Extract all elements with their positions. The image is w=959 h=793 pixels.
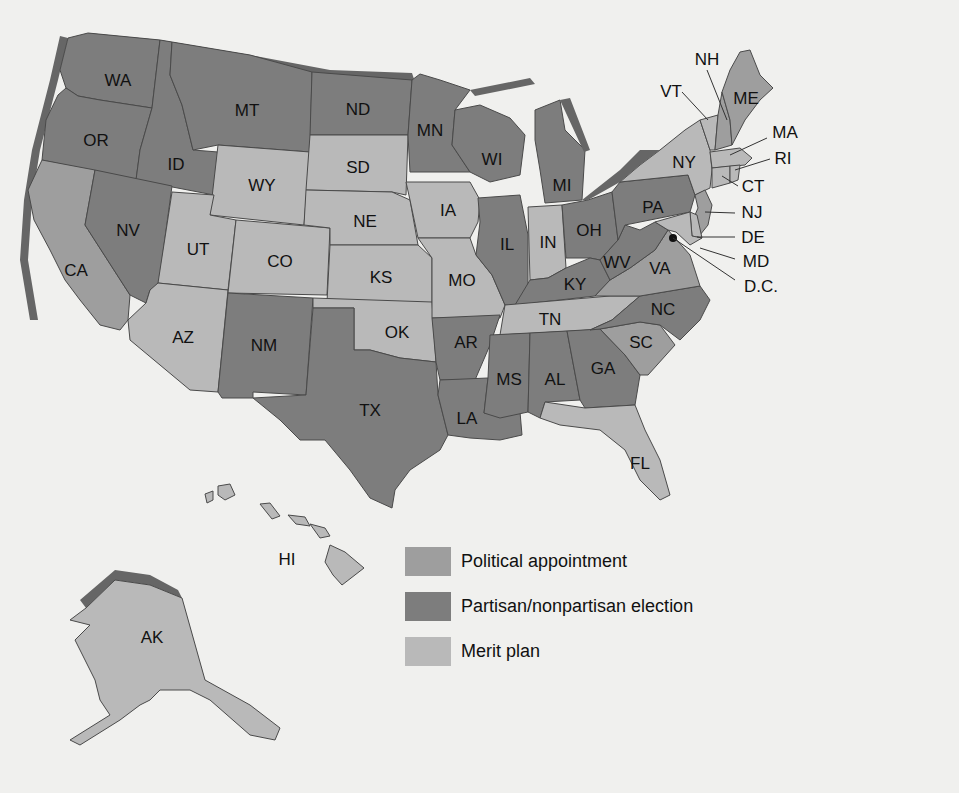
label-HI: HI: [279, 550, 296, 569]
label-RI: RI: [775, 149, 792, 168]
label-NM: NM: [251, 336, 277, 355]
label-ND: ND: [346, 100, 371, 119]
label-CA: CA: [64, 261, 88, 280]
state-RI[interactable]: [730, 165, 740, 183]
state-FL[interactable]: [540, 402, 670, 500]
label-OK: OK: [385, 323, 410, 342]
label-CO: CO: [267, 252, 293, 271]
label-DE: DE: [741, 228, 765, 247]
label-AL: AL: [545, 370, 566, 389]
label-WA: WA: [105, 71, 132, 90]
state-AK[interactable]: [70, 580, 280, 745]
label-UT: UT: [187, 240, 210, 259]
legend-swatch: [405, 637, 451, 666]
label-NY: NY: [672, 153, 696, 172]
label-SC: SC: [629, 333, 653, 352]
label-VA: VA: [649, 259, 671, 278]
label-NH: NH: [695, 50, 720, 69]
state-HI[interactable]: [205, 484, 364, 585]
state-MT[interactable]: [170, 42, 312, 152]
legend-swatch: [405, 592, 451, 621]
legend-label: Merit plan: [461, 641, 540, 662]
label-GA: GA: [591, 359, 616, 378]
label-AK: AK: [141, 628, 164, 647]
label-WV: WV: [603, 253, 631, 272]
label-MO: MO: [448, 271, 475, 290]
label-AR: AR: [454, 333, 478, 352]
label-OR: OR: [83, 131, 109, 150]
state-MA[interactable]: [710, 148, 752, 168]
label-MN: MN: [417, 121, 443, 140]
label-SD: SD: [346, 158, 370, 177]
label-OH: OH: [576, 221, 602, 240]
label-KS: KS: [370, 268, 393, 287]
legend-swatch: [405, 547, 451, 576]
label-IN: IN: [540, 233, 557, 252]
label-ID: ID: [168, 155, 185, 174]
label-MT: MT: [235, 101, 260, 120]
legend-label: Partisan/nonpartisan election: [461, 596, 693, 617]
legend-item-merit-plan: Merit plan: [405, 635, 693, 668]
label-NC: NC: [651, 300, 676, 319]
legend-item-political-appointment: Political appointment: [405, 545, 693, 578]
label-VT: VT: [660, 82, 682, 101]
label-CT: CT: [742, 177, 765, 196]
label-WY: WY: [248, 176, 275, 195]
label-MI: MI: [553, 176, 572, 195]
label-IL: IL: [500, 235, 514, 254]
label-KY: KY: [564, 275, 587, 294]
label-LA: LA: [457, 409, 478, 428]
label-NV: NV: [116, 221, 140, 240]
legend-item-election: Partisan/nonpartisan election: [405, 590, 693, 623]
label-AZ: AZ: [172, 328, 194, 347]
label-TN: TN: [539, 310, 562, 329]
label-MA: MA: [772, 123, 798, 142]
label-PA: PA: [642, 198, 664, 217]
state-CT[interactable]: [712, 166, 730, 188]
legend: Political appointment Partisan/nonpartis…: [405, 545, 693, 680]
label-NJ: NJ: [742, 203, 763, 222]
label-ME: ME: [733, 89, 759, 108]
label-WI: WI: [482, 150, 503, 169]
label-NE: NE: [353, 212, 377, 231]
label-MS: MS: [496, 370, 522, 389]
label-IA: IA: [440, 201, 457, 220]
label-TX: TX: [359, 401, 381, 420]
label-DC: D.C.: [744, 277, 778, 296]
label-FL: FL: [630, 454, 650, 473]
label-MD: MD: [743, 252, 769, 271]
legend-label: Political appointment: [461, 551, 627, 572]
